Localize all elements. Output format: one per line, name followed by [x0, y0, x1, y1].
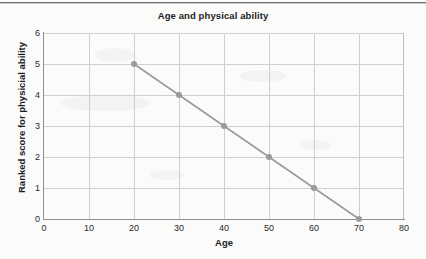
data-point — [221, 123, 227, 129]
x-tick-label: 80 — [389, 223, 419, 233]
data-series — [44, 33, 404, 219]
x-tick-label: 40 — [209, 223, 239, 233]
y-tick-label: 2 — [14, 152, 40, 162]
x-tick-label: 0 — [29, 223, 59, 233]
x-axis-title: Age — [44, 237, 404, 248]
series-line — [134, 64, 359, 219]
x-tick-label: 20 — [119, 223, 149, 233]
data-point — [311, 185, 317, 191]
x-axis-line — [43, 219, 405, 220]
y-tick-label: 3 — [14, 121, 40, 131]
data-point — [266, 154, 272, 160]
y-axis-tick-labels: 6 5 4 3 2 1 0 — [10, 33, 40, 219]
plot-area — [44, 33, 404, 219]
data-point — [131, 61, 137, 67]
y-tick-label: 5 — [14, 59, 40, 69]
y-tick-label: 6 — [14, 28, 40, 38]
x-axis-tick-labels: 0 10 20 30 40 50 60 70 80 — [44, 223, 404, 237]
x-tick-label: 10 — [74, 223, 104, 233]
data-point — [176, 92, 182, 98]
data-point — [356, 216, 362, 222]
x-tick-label: 50 — [254, 223, 284, 233]
chart-page: Age and physical ability Ranked score fo… — [0, 0, 426, 259]
y-tick-label: 4 — [14, 90, 40, 100]
x-tick-label: 70 — [344, 223, 374, 233]
page-top-rule-shadow — [0, 3, 426, 4]
x-tick-label: 30 — [164, 223, 194, 233]
x-tick-label: 60 — [299, 223, 329, 233]
chart-title: Age and physical ability — [0, 10, 426, 21]
y-tick-label: 1 — [14, 183, 40, 193]
